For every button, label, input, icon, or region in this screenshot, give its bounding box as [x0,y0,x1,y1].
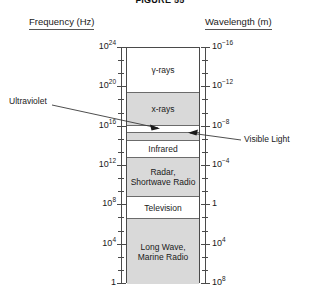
visible-light-leader-line [0,0,320,308]
